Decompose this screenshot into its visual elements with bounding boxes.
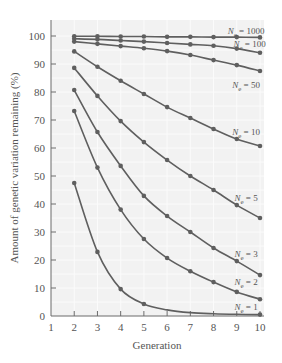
data-point-marker [95, 250, 100, 255]
y-tick-label: 0 [40, 310, 46, 322]
data-point-marker [142, 39, 147, 44]
data-point-marker [234, 290, 239, 295]
data-point-marker [118, 207, 123, 212]
data-point-marker [118, 79, 123, 84]
data-point-marker [142, 46, 147, 51]
data-point-marker [142, 92, 147, 97]
data-point-marker [165, 105, 170, 110]
x-tick-label: 1 [48, 321, 54, 333]
data-point-marker [72, 49, 77, 54]
data-point-marker [142, 302, 147, 307]
data-point-marker [258, 273, 263, 278]
data-point-marker [72, 88, 77, 93]
y-axis-title: Amount of genetic variation remaining (%… [8, 72, 21, 263]
x-tick-label: 6 [164, 321, 170, 333]
data-point-marker [95, 94, 100, 99]
y-tick-label: 60 [34, 142, 46, 154]
x-tick-label: 9 [234, 321, 240, 333]
data-point-marker [165, 41, 170, 46]
chart: 12345678910 0102030405060708090100 Ne = … [0, 0, 282, 363]
y-tick-label: 40 [34, 198, 46, 210]
y-tick-label: 80 [34, 86, 46, 98]
x-tick-label: 10 [255, 321, 267, 333]
y-tick-label: 70 [34, 114, 46, 126]
data-point-marker [72, 109, 77, 114]
data-point-marker [118, 34, 123, 39]
data-point-marker [142, 34, 147, 39]
y-tick-label: 90 [34, 58, 46, 70]
data-point-marker [211, 127, 216, 132]
data-point-marker [95, 42, 100, 47]
x-tick-label: 8 [211, 321, 217, 333]
data-point-marker [95, 165, 100, 170]
data-point-marker [258, 312, 263, 317]
x-tick-label: 3 [95, 321, 101, 333]
data-point-marker [258, 144, 263, 149]
data-point-marker [142, 194, 147, 199]
data-point-marker [95, 65, 100, 70]
data-point-marker [234, 203, 239, 208]
x-axis-title: Generation [133, 339, 182, 351]
data-point-marker [211, 188, 216, 193]
data-point-marker [188, 230, 193, 235]
data-point-marker [72, 39, 77, 44]
data-point-marker [188, 35, 193, 40]
x-tick-label: 2 [71, 321, 77, 333]
data-point-marker [188, 53, 193, 58]
data-point-marker [211, 246, 216, 251]
data-point-marker [118, 287, 123, 292]
data-point-marker [118, 119, 123, 124]
data-point-marker [258, 51, 263, 56]
data-point-marker [234, 259, 239, 264]
data-point-marker [118, 38, 123, 43]
data-point-marker [165, 214, 170, 219]
x-tick-label: 4 [118, 321, 124, 333]
x-tick-label: 7 [188, 321, 194, 333]
data-point-marker [188, 116, 193, 121]
data-point-marker [142, 237, 147, 242]
data-point-marker [165, 49, 170, 54]
data-point-marker [118, 164, 123, 169]
data-point-marker [188, 269, 193, 274]
data-point-marker [188, 174, 193, 179]
data-point-marker [165, 35, 170, 40]
data-point-marker [211, 35, 216, 40]
y-tick-label: 10 [34, 282, 46, 294]
data-point-marker [72, 66, 77, 71]
data-point-marker [72, 181, 77, 186]
x-tick-label: 5 [141, 321, 147, 333]
y-tick-label: 20 [34, 254, 46, 266]
data-point-marker [258, 69, 263, 74]
data-point-marker [211, 44, 216, 49]
data-point-marker [118, 44, 123, 49]
data-point-marker [95, 37, 100, 42]
data-point-marker [258, 297, 263, 302]
data-point-marker [258, 216, 263, 221]
y-tick-label: 50 [34, 170, 46, 182]
data-point-marker [142, 140, 147, 145]
data-point-marker [234, 63, 239, 68]
y-tick-label: 100 [29, 30, 46, 42]
data-point-marker [211, 58, 216, 63]
data-point-marker [95, 130, 100, 135]
data-point-marker [211, 280, 216, 285]
data-point-marker [188, 42, 193, 47]
data-point-marker [165, 256, 170, 261]
y-tick-label: 30 [34, 226, 46, 238]
data-point-marker [165, 158, 170, 163]
